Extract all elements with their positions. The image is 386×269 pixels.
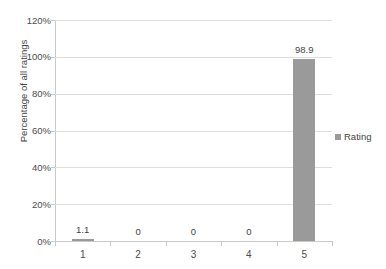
bar-value-label: 0 — [135, 226, 140, 238]
y-axis-tick-mark — [51, 57, 55, 58]
bar-chart: Percentage of all ratings 0%20%40%60%80%… — [0, 0, 386, 269]
bar-value-label: 98.9 — [295, 44, 314, 56]
bar-value-label: 0 — [191, 226, 196, 238]
y-axis-tick-mark — [51, 20, 55, 21]
x-axis-tick-mark — [166, 242, 167, 246]
x-axis-tick-mark — [55, 242, 56, 246]
x-axis-tick-mark — [277, 242, 278, 246]
y-axis-tick-label: 80% — [5, 88, 51, 99]
x-axis-tick-label: 2 — [118, 248, 158, 261]
y-axis-tick-mark — [51, 167, 55, 168]
bar-rating-5[interactable] — [293, 59, 315, 241]
legend-item-rating: Rating — [344, 131, 371, 142]
x-axis-tick-mark — [110, 242, 111, 246]
plot-area: 1.100098.9 — [55, 20, 332, 241]
legend: Rating — [335, 131, 371, 142]
y-axis-tick-mark — [51, 94, 55, 95]
y-axis-tick-mark — [51, 241, 55, 242]
bar-slot: 1.1 — [55, 20, 110, 241]
bar-slot: 0 — [166, 20, 221, 241]
y-axis-tick-label: 60% — [5, 125, 51, 136]
x-axis-tick-mark — [221, 242, 222, 246]
x-axis-tick-label: 1 — [63, 248, 103, 261]
y-axis-tick-label: 0% — [5, 236, 51, 247]
bar-slot: 98.9 — [277, 20, 332, 241]
bar-slot: 0 — [110, 20, 165, 241]
legend-color-swatch — [335, 134, 341, 140]
y-axis-tick-label: 20% — [5, 199, 51, 210]
x-axis-tick-mark — [332, 242, 333, 246]
bar-value-label: 1.1 — [76, 224, 89, 236]
x-axis-tick-label: 3 — [174, 248, 214, 261]
x-axis-tick-label: 5 — [284, 248, 324, 261]
bar-value-label: 0 — [246, 226, 251, 238]
y-axis-tick-label: 100% — [5, 51, 51, 62]
y-axis-tick-label: 40% — [5, 162, 51, 173]
x-axis-line — [55, 241, 333, 242]
y-axis-tick-mark — [51, 204, 55, 205]
bar-slot: 0 — [221, 20, 276, 241]
y-axis-tick-mark — [51, 131, 55, 132]
y-axis-tick-label: 120% — [5, 15, 51, 26]
y-axis-tick-labels: 0%20%40%60%80%100%120% — [0, 0, 51, 269]
x-axis-tick-label: 4 — [229, 248, 269, 261]
